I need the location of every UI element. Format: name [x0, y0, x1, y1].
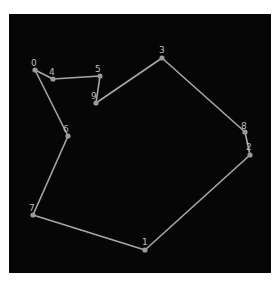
- node-label-9: 9: [91, 91, 97, 101]
- node-label-5: 5: [95, 64, 101, 74]
- nodes-layer: [30, 55, 252, 252]
- edge-7-6: [33, 136, 68, 215]
- edge-3-8: [162, 58, 245, 132]
- node-label-0: 0: [31, 58, 37, 68]
- edge-9-3: [96, 58, 162, 103]
- node-0: [32, 67, 37, 72]
- edge-1-7: [33, 215, 145, 250]
- edge-2-1: [145, 155, 250, 250]
- node-label-1: 1: [142, 237, 148, 247]
- node-4: [50, 76, 55, 81]
- node-9: [93, 100, 98, 105]
- node-label-2: 2: [246, 142, 252, 152]
- node-label-8: 8: [241, 121, 247, 131]
- node-1: [142, 247, 147, 252]
- node-5: [97, 73, 102, 78]
- node-7: [30, 212, 35, 217]
- node-6: [65, 133, 70, 138]
- edges-layer: [33, 58, 250, 250]
- node-label-6: 6: [63, 124, 69, 134]
- labels-layer: 0123456789: [29, 45, 252, 247]
- tour-graph: 0123456789: [0, 0, 279, 281]
- node-label-7: 7: [29, 203, 35, 213]
- node-3: [159, 55, 164, 60]
- node-label-4: 4: [49, 67, 55, 77]
- node-label-3: 3: [159, 45, 165, 55]
- edge-4-5: [53, 76, 100, 79]
- node-2: [247, 152, 252, 157]
